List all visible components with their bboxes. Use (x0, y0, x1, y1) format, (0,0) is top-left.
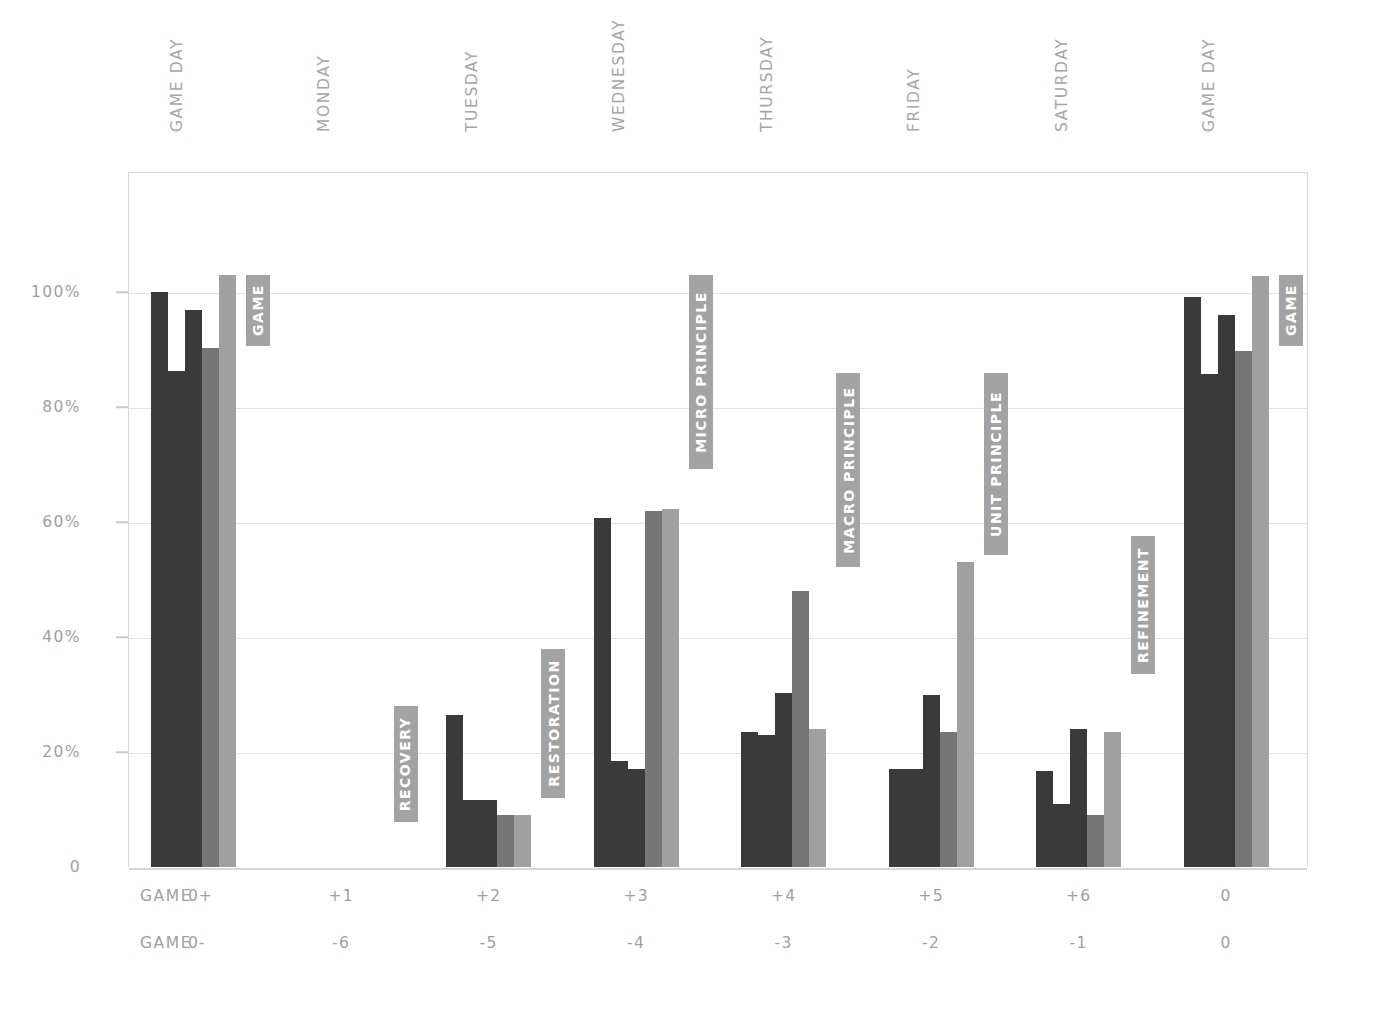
bar-3-0 (594, 518, 611, 867)
bar-4-1 (758, 735, 775, 867)
bottom-cell-0-4: +4 (739, 887, 829, 905)
day-label-band: GAME DAYMONDAYTUESDAYWEDNESDAYTHURSDAYFR… (0, 0, 1389, 172)
phase-tag-label: REFINEMENT (1135, 547, 1151, 663)
bar-5-2 (923, 695, 940, 868)
phase-tag-label: RESTORATION (545, 659, 561, 786)
bar-2-4 (514, 815, 531, 867)
bar-3-2 (628, 769, 645, 867)
bar-group-6 (1036, 172, 1121, 867)
bar-6-4 (1104, 732, 1121, 867)
bottom-cell-1-6: -1 (1034, 934, 1124, 952)
bar-0-2 (185, 310, 202, 867)
bar-group-7 (1184, 172, 1269, 867)
bar-2-3 (497, 815, 514, 867)
phase-tag-refinement: REFINEMENT (1131, 536, 1155, 674)
bar-6-3 (1087, 815, 1104, 867)
bottom-cell-1-5: -2 (886, 934, 976, 952)
bottom-cell-0-2: +2 (444, 887, 534, 905)
bar-7-1 (1201, 374, 1218, 867)
phase-tag-label: GAME (250, 284, 266, 336)
bar-3-3 (645, 511, 662, 868)
bar-4-3 (792, 591, 809, 867)
bar-2-2 (480, 800, 497, 867)
bar-chart: GAME DAYMONDAYTUESDAYWEDNESDAYTHURSDAYFR… (0, 0, 1389, 1009)
phase-tag-label: UNIT PRINCIPLE (988, 391, 1004, 537)
bar-5-3 (940, 732, 957, 867)
bar-0-3 (202, 348, 219, 867)
y-tick-label-60%: 60% (0, 513, 81, 531)
bar-group-5 (889, 172, 974, 867)
bottom-cell-0-7: 0 (1181, 887, 1271, 905)
phase-tag-label: MACRO PRINCIPLE (840, 386, 856, 553)
day-label-1: MONDAY (315, 55, 333, 132)
day-label-6: SATURDAY (1053, 38, 1071, 132)
phase-tag-unit-principle: UNIT PRINCIPLE (984, 373, 1008, 556)
bar-6-2 (1070, 729, 1087, 867)
bottom-cell-0-0: 0 (149, 887, 239, 905)
day-label-7: GAME DAY (1200, 38, 1218, 132)
bottom-cell-1-2: -5 (444, 934, 534, 952)
bottom-cell-0-5: +5 (886, 887, 976, 905)
day-label-0: GAME DAY (168, 38, 186, 132)
bottom-cell-0-1: +1 (296, 887, 386, 905)
day-label-2: TUESDAY (463, 50, 481, 132)
bar-6-0 (1036, 771, 1053, 867)
y-tick-mark-100% (116, 291, 128, 293)
bar-7-3 (1235, 351, 1252, 867)
bar-6-1 (1053, 804, 1070, 867)
bar-4-0 (741, 732, 758, 867)
bar-group-1 (299, 172, 384, 867)
bar-group-3 (594, 172, 679, 867)
bottom-cell-1-0: 0 (149, 934, 239, 952)
phase-tag-label: MICRO PRINCIPLE (693, 291, 709, 453)
bar-0-4 (219, 275, 236, 867)
bar-7-2 (1218, 315, 1235, 867)
y-tick-label-100%: 100% (0, 283, 81, 301)
phase-tag-label: GAME (1283, 284, 1299, 336)
phase-tag-macro-principle: MACRO PRINCIPLE (836, 373, 860, 567)
y-tick-label-80%: 80% (0, 398, 81, 416)
bar-4-4 (809, 729, 826, 867)
bar-7-0 (1184, 297, 1201, 867)
bottom-cell-1-1: -6 (296, 934, 386, 952)
bottom-cell-0-6: +6 (1034, 887, 1124, 905)
phase-tag-label: RECOVERY (398, 716, 414, 811)
bar-4-2 (775, 693, 792, 867)
bar-3-4 (662, 509, 679, 867)
y-tick-mark-40% (116, 636, 128, 638)
bar-5-1 (906, 769, 923, 867)
bar-7-4 (1252, 276, 1269, 867)
day-label-5: FRIDAY (905, 68, 923, 132)
bar-5-4 (957, 562, 974, 867)
bottom-cell-1-3: -4 (591, 934, 681, 952)
phase-tag-recovery: RECOVERY (394, 706, 418, 822)
bar-group-4 (741, 172, 826, 867)
bar-group-0 (151, 172, 236, 867)
bar-0-0 (151, 292, 168, 867)
day-label-4: THURSDAY (758, 36, 776, 132)
y-tick-mark-80% (116, 406, 128, 408)
phase-tag-game: GAME (1279, 275, 1303, 346)
bars-layer (128, 172, 1308, 867)
bar-2-0 (446, 715, 463, 867)
bottom-label-table: GAME +0+1+2+3+4+5+60GAME -0-6-5-4-3-2-10 (0, 869, 1389, 979)
bar-group-2 (446, 172, 531, 867)
y-tick-mark-20% (116, 751, 128, 753)
phase-tag-micro-principle: MICRO PRINCIPLE (689, 275, 713, 469)
phase-tag-restoration: RESTORATION (541, 649, 565, 798)
bottom-cell-0-3: +3 (591, 887, 681, 905)
bottom-cell-1-7: 0 (1181, 934, 1271, 952)
y-tick-label-20%: 20% (0, 743, 81, 761)
y-tick-mark-60% (116, 521, 128, 523)
y-tick-label-40%: 40% (0, 628, 81, 646)
bottom-cell-1-4: -3 (739, 934, 829, 952)
phase-tag-game: GAME (246, 275, 270, 346)
bar-0-1 (168, 371, 185, 867)
bar-5-0 (889, 769, 906, 867)
day-label-3: WEDNESDAY (610, 19, 628, 132)
bar-2-1 (463, 800, 480, 867)
bar-3-1 (611, 761, 628, 867)
